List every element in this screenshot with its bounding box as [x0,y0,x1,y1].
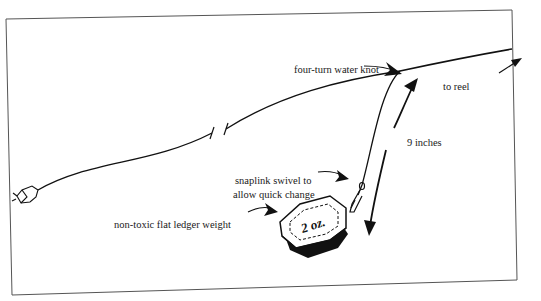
arrowhead-up-icon [404,78,418,92]
weight-pointer-arrow [248,208,270,213]
knot-label: four-turn water knot [294,64,379,75]
ledger-weight: 2 oz. [280,196,348,258]
main-line-lower [38,133,212,190]
rig-diagram: 2 oz. four-turn water knot to reel 9 inc… [0,0,541,301]
swivel-label-line1: snaplink swivel to [235,175,311,186]
snaplink-swivel-icon [350,183,365,213]
length-dimension-arrow [370,88,412,226]
length-label: 9 inches [407,137,442,148]
weight-arrowhead-icon [264,203,278,216]
arrowhead-down-icon [364,220,376,236]
swivel-label-line2: allow quick change [233,189,315,200]
knot-arrowhead-icon [384,62,402,76]
line-break-mark-right [224,123,228,135]
weight-label: non-toxic flat ledger weight [114,219,231,230]
main-line-upper [226,71,400,129]
reel-label: to reel [443,81,470,92]
hook-icon [12,186,38,203]
main-line-to-reel [400,49,512,71]
frame-border [6,10,517,295]
swivel-arrowhead-icon [335,170,349,182]
